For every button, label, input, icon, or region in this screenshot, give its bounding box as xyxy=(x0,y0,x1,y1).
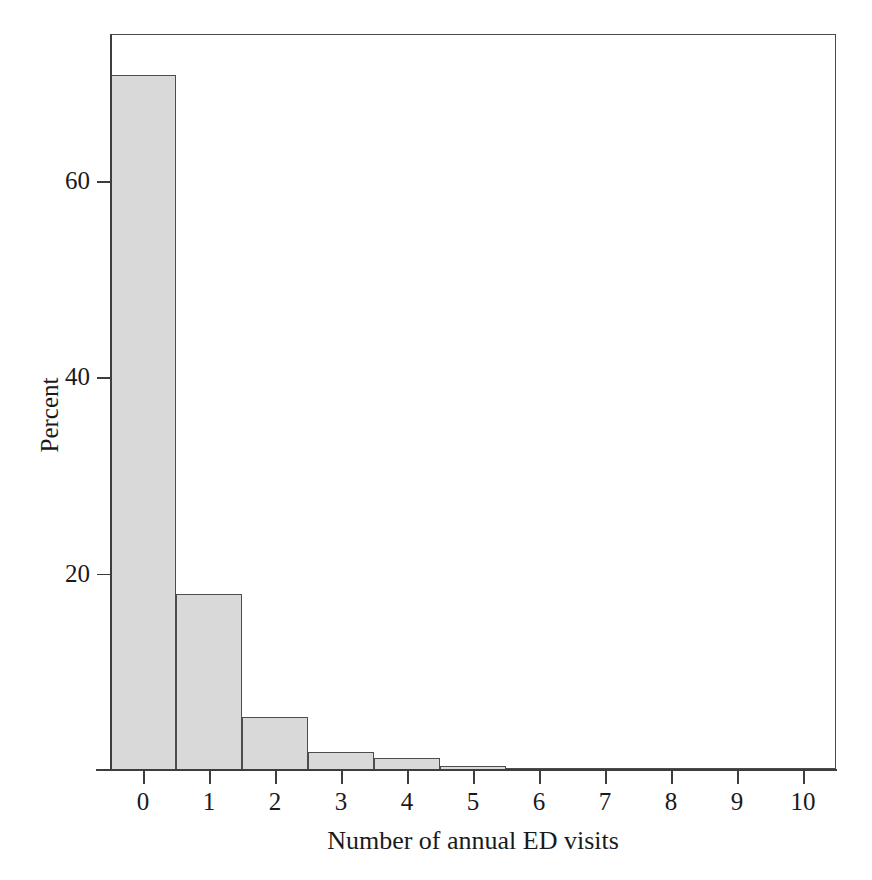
x-axis-tick xyxy=(539,771,541,784)
x-axis-tick-label: 3 xyxy=(311,788,371,816)
histogram-figure: 204060 012345678910 Percent Number of an… xyxy=(0,0,872,880)
y-axis-line xyxy=(110,34,112,771)
x-axis-tick xyxy=(671,771,673,784)
x-axis-tick-label: 6 xyxy=(509,788,569,816)
x-axis-tick xyxy=(803,771,805,784)
x-axis-tick-label-text: 7 xyxy=(599,788,612,815)
x-axis-tick-label-text: 9 xyxy=(731,788,744,815)
histogram-bar xyxy=(242,717,308,770)
y-axis-tick xyxy=(97,181,110,183)
x-axis-tick-label: 10 xyxy=(773,788,833,816)
x-axis-tick-label-text: 0 xyxy=(137,788,150,815)
x-axis-tick-label: 2 xyxy=(245,788,305,816)
x-axis-tick xyxy=(407,771,409,784)
x-axis-tick xyxy=(143,771,145,784)
x-axis-tick xyxy=(209,771,211,784)
x-axis-tick xyxy=(275,771,277,784)
histogram-bar xyxy=(176,594,242,770)
x-axis-tick-label: 1 xyxy=(179,788,239,816)
x-axis-tick-label-text: 5 xyxy=(467,788,480,815)
y-axis-tick xyxy=(97,574,110,576)
y-axis-title-text: Percent xyxy=(36,378,64,453)
x-axis-tick xyxy=(473,771,475,784)
x-axis-tick-label: 8 xyxy=(641,788,701,816)
bars-layer xyxy=(110,34,836,770)
histogram-bar xyxy=(308,752,374,770)
x-axis-tick-label-text: 8 xyxy=(665,788,678,815)
y-axis-title: Percent xyxy=(20,355,80,475)
x-axis-tick xyxy=(737,771,739,784)
y-axis-tick xyxy=(97,377,110,379)
x-axis-tick-label: 7 xyxy=(575,788,635,816)
y-axis-tick-label: 20 xyxy=(40,561,90,586)
x-axis-tick-label-text: 1 xyxy=(203,788,216,815)
x-axis-tick xyxy=(341,771,343,784)
x-axis-tick xyxy=(605,771,607,784)
y-axis-tick-label-text: 20 xyxy=(65,561,90,586)
y-axis-tick-label: 60 xyxy=(40,168,90,193)
histogram-bar xyxy=(110,75,176,770)
x-axis-tick-label: 5 xyxy=(443,788,503,816)
x-axis-title: Number of annual ED visits xyxy=(110,826,836,856)
x-axis-tick-label-text: 4 xyxy=(401,788,414,815)
x-axis-tick-label: 0 xyxy=(113,788,173,816)
x-axis-tick-label: 4 xyxy=(377,788,437,816)
x-axis-tick-label-text: 2 xyxy=(269,788,282,815)
x-axis-line xyxy=(96,769,837,771)
x-axis-tick-label-text: 10 xyxy=(791,788,816,815)
x-axis-tick-label-text: 3 xyxy=(335,788,348,815)
x-axis-tick-label-text: 6 xyxy=(533,788,546,815)
y-axis-tick-label-text: 60 xyxy=(65,168,90,193)
x-axis-tick-label: 9 xyxy=(707,788,767,816)
